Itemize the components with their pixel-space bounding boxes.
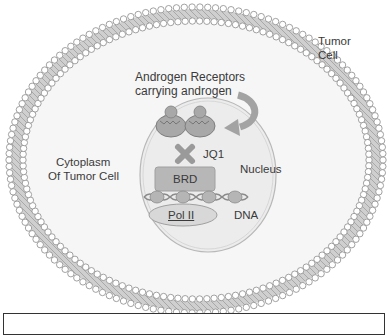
- dna-label: DNA: [234, 208, 258, 222]
- jq1-label: JQ1: [203, 147, 224, 161]
- brd-label: BRD: [173, 172, 197, 186]
- cytoplasm-label: Cytoplasm Of Tumor Cell: [48, 155, 119, 183]
- caption-box: [3, 313, 385, 335]
- nucleus-label: Nucleus: [240, 162, 282, 176]
- androgen-receptors-label: Androgen Receptors carrying androgen: [135, 70, 245, 98]
- pol2-label: Pol II: [168, 208, 194, 222]
- tumor-cell-label: Tumor Cell: [318, 34, 351, 62]
